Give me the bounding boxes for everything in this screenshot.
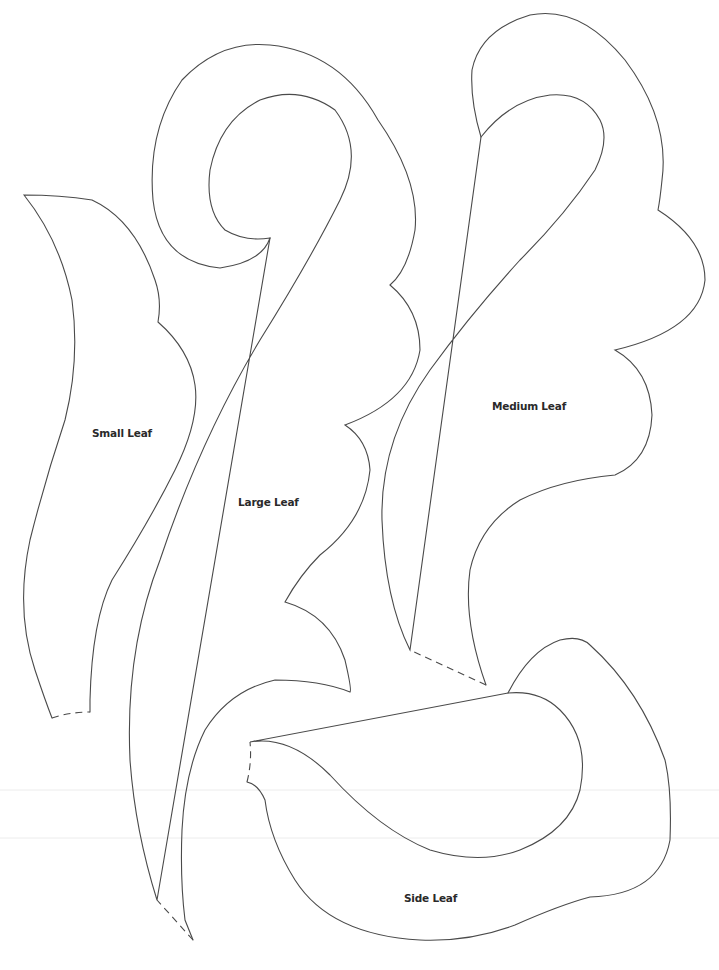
large-leaf-label: Large Leaf: [238, 496, 299, 508]
side-leaf-label: Side Leaf: [404, 892, 457, 904]
small-leaf-label: Small Leaf: [92, 427, 152, 439]
medium-leaf-label: Medium Leaf: [492, 400, 566, 412]
large-leaf-shape: [129, 44, 420, 940]
medium-leaf-shape: [382, 13, 705, 685]
side-leaf-shape: [247, 638, 670, 940]
leaf-outlines: [0, 0, 719, 970]
template-page: Small Leaf Large Leaf Medium Leaf Side L…: [0, 0, 719, 970]
small-leaf-shape: [24, 195, 196, 718]
